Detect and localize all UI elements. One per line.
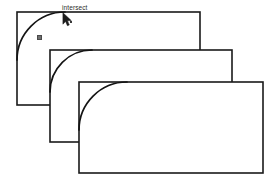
rectangle-outline[interactable] bbox=[79, 82, 263, 173]
vector-drawing-surface[interactable] bbox=[0, 0, 278, 188]
shape-layer bbox=[17, 12, 263, 173]
drawing-canvas[interactable]: intersect bbox=[0, 0, 278, 188]
cursor-snap-indicator bbox=[70, 21, 72, 23]
snap-point-marker bbox=[37, 35, 42, 40]
shape-group[interactable] bbox=[79, 82, 263, 173]
